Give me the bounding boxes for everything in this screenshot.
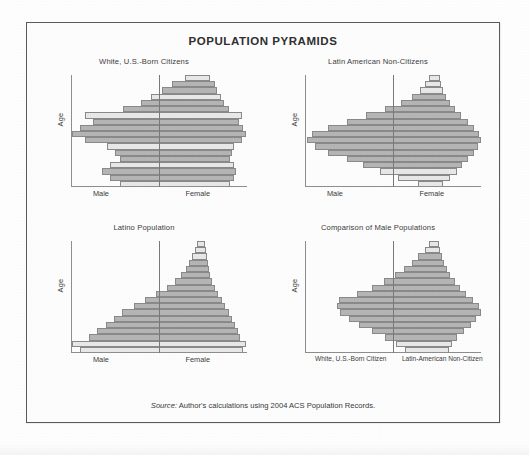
bar-right bbox=[414, 285, 460, 291]
bar-left bbox=[89, 334, 166, 340]
bar-right bbox=[417, 334, 456, 340]
row-spacer bbox=[93, 303, 134, 309]
row-spacer bbox=[313, 297, 338, 303]
source-note: Source: Author's calculations using 2004… bbox=[27, 401, 499, 410]
bar-right bbox=[174, 150, 231, 156]
bar-right bbox=[393, 309, 481, 315]
bar-left bbox=[156, 291, 188, 297]
x-label-right: Latin-American Non-Citizen bbox=[402, 355, 483, 362]
bar-left bbox=[425, 247, 434, 253]
bar-right bbox=[433, 81, 442, 87]
row-spacer bbox=[340, 94, 412, 100]
row-spacer bbox=[329, 334, 385, 340]
panel-title: Latino Population bbox=[33, 223, 255, 232]
bar-left bbox=[384, 278, 419, 284]
row-spacer bbox=[76, 112, 85, 118]
x-axis-labels: White, U.S.-Born Citizen Latin-American … bbox=[305, 355, 481, 367]
row-spacer bbox=[310, 316, 349, 322]
bar-right bbox=[395, 131, 479, 137]
bar-right bbox=[422, 341, 452, 347]
bar-right bbox=[403, 322, 470, 328]
bar-right bbox=[184, 297, 221, 303]
bar-right bbox=[164, 112, 241, 118]
row-spacer bbox=[308, 143, 315, 149]
bar-left bbox=[363, 162, 411, 168]
bar-right bbox=[424, 100, 449, 106]
x-label-left: Male bbox=[93, 355, 109, 364]
bar-right bbox=[419, 278, 455, 284]
bar-left bbox=[366, 112, 413, 118]
bar-right bbox=[432, 253, 441, 259]
page-edge-shadow bbox=[0, 443, 529, 455]
y-axis-label: Age bbox=[290, 100, 299, 140]
row-spacer bbox=[84, 175, 109, 181]
bar-left bbox=[312, 131, 395, 137]
panel-title: Comparison of Male Populations bbox=[267, 223, 489, 232]
bar-right bbox=[181, 303, 226, 309]
bar-left bbox=[122, 309, 176, 315]
bar-left bbox=[328, 125, 400, 131]
bar-left bbox=[347, 119, 406, 125]
bar-left bbox=[307, 137, 393, 143]
bar-right bbox=[434, 75, 439, 81]
source-prefix: Source: bbox=[151, 401, 177, 410]
panel-title: Latin American Non-Citizens bbox=[267, 57, 489, 66]
y-axis-label: Age bbox=[56, 100, 65, 140]
bar-left bbox=[380, 168, 418, 174]
bar-left bbox=[372, 328, 410, 334]
bar-left bbox=[425, 81, 432, 87]
bar-right bbox=[396, 143, 479, 149]
bar-left bbox=[106, 322, 172, 328]
row-spacer bbox=[343, 87, 420, 93]
row-spacer bbox=[345, 81, 426, 87]
bar-left bbox=[120, 156, 176, 162]
bar-left bbox=[337, 303, 395, 309]
row-spacer bbox=[336, 100, 401, 106]
bar-right bbox=[435, 241, 438, 247]
center-spine bbox=[159, 75, 160, 187]
bar-right bbox=[400, 150, 474, 156]
row-spacer bbox=[84, 143, 107, 149]
row-spacer bbox=[89, 309, 123, 315]
panel-white-us-born-citizens: White, U.S.-Born Citizens Age Male Femal… bbox=[33, 57, 255, 212]
bar-right bbox=[424, 272, 451, 278]
row-spacer bbox=[315, 322, 359, 328]
x-label-left: Male bbox=[93, 189, 109, 198]
plot-area: Age White, U.S.-Born Citizen Latin-Ameri… bbox=[305, 241, 481, 353]
row-spacer bbox=[339, 266, 404, 272]
bar-left bbox=[162, 87, 189, 93]
bar-right bbox=[172, 162, 233, 168]
bar-left bbox=[175, 278, 194, 284]
x-label-right: Female bbox=[419, 189, 444, 198]
bar-left bbox=[123, 106, 177, 112]
plot-area: Age Male Female bbox=[71, 75, 247, 187]
panel-latin-american-non-citizens: Latin American Non-Citizens Age Male Fem… bbox=[267, 57, 489, 212]
bar-left bbox=[412, 260, 431, 266]
bar-right bbox=[431, 87, 444, 93]
bar-left bbox=[145, 297, 184, 303]
bar-left bbox=[385, 334, 417, 340]
bar-left bbox=[349, 316, 398, 322]
row-spacer bbox=[320, 291, 357, 297]
row-spacer bbox=[344, 253, 418, 259]
row-spacer bbox=[94, 100, 141, 106]
bar-left bbox=[328, 150, 400, 156]
x-label-left: White, U.S.-Born Citizen bbox=[315, 355, 386, 362]
bar-right bbox=[170, 168, 236, 174]
bar-left bbox=[134, 303, 181, 309]
bar-left bbox=[85, 137, 164, 143]
bar-right bbox=[191, 81, 214, 87]
bar-right bbox=[164, 137, 241, 143]
bar-left bbox=[395, 272, 424, 278]
x-label-right: Female bbox=[185, 355, 210, 364]
row-spacer bbox=[89, 106, 123, 112]
row-spacer bbox=[109, 266, 186, 272]
bar-right bbox=[393, 137, 481, 143]
row-spacer bbox=[305, 309, 340, 315]
bar-left bbox=[115, 150, 174, 156]
bar-right bbox=[196, 75, 210, 81]
center-spine bbox=[159, 241, 160, 353]
bar-right bbox=[413, 112, 461, 118]
bar-left bbox=[418, 253, 432, 259]
bar-left bbox=[401, 100, 424, 106]
